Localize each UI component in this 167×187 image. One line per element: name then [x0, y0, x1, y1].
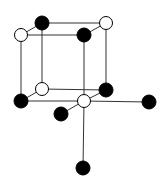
atom-white-bottom-front-right	[78, 95, 91, 108]
crystal-structure-diagram	[0, 0, 167, 187]
atom-black-extra-right	[142, 95, 156, 109]
bond-line	[42, 89, 106, 90]
atom-black-bottom-back-right	[99, 83, 113, 97]
atom-black-extra-bottom	[76, 161, 90, 175]
atom-white-top-back-right	[100, 17, 113, 30]
atom-white-top-front-left	[15, 29, 28, 42]
bond-line	[84, 101, 149, 102]
bond-line	[83, 101, 84, 168]
atoms-layer	[14, 16, 156, 175]
atom-black-bottom-front-left	[14, 94, 28, 108]
atom-black-extra-front	[54, 107, 68, 121]
atom-white-bottom-back-left	[36, 83, 49, 96]
atom-black-top-back-left	[35, 16, 49, 30]
atom-black-top-front-right	[77, 28, 91, 42]
